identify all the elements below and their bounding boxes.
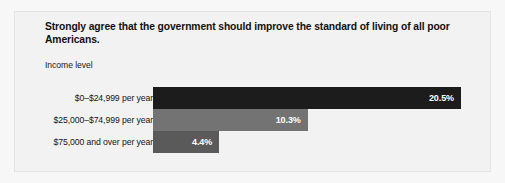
- bar-segment: 20.5%: [153, 87, 461, 109]
- category-axis-label: Income level: [45, 60, 93, 70]
- chart-title: Strongly agree that the government shoul…: [45, 21, 465, 46]
- bar-value-label: 20.5%: [429, 87, 454, 109]
- bar-row: $0–$24,999 per year 20.5%: [0, 87, 505, 109]
- category-label: $25,000–$74,999 per year: [53, 109, 153, 131]
- bar-row: $25,000–$74,999 per year 10.3%: [0, 109, 505, 131]
- bar-segment: 4.4%: [153, 131, 219, 153]
- bar-value-label: 4.4%: [192, 131, 212, 153]
- bar-value-label: 10.3%: [276, 109, 301, 131]
- plot-area: $0–$24,999 per year 20.5% $25,000–$74,99…: [0, 87, 505, 155]
- category-label: $75,000 and over per year: [54, 131, 153, 153]
- bar-segment: 10.3%: [153, 109, 308, 131]
- chart-figure: Strongly agree that the government shoul…: [0, 0, 505, 183]
- bar-row: $75,000 and over per year 4.4%: [0, 131, 505, 153]
- category-label: $0–$24,999 per year: [75, 87, 153, 109]
